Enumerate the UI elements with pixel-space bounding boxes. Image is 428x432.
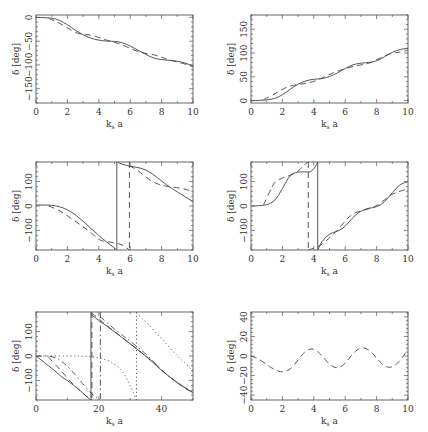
x-tick-label: 8	[159, 254, 165, 264]
y-tick-label: −100	[24, 218, 34, 243]
series-dash-dot	[100, 317, 193, 393]
x-tick-label: 2	[280, 107, 286, 117]
y-tick-label: −50	[24, 31, 34, 50]
y-tick-label: −100	[24, 368, 34, 393]
series-solid	[91, 314, 193, 392]
panel-bottom-right: 024681040200−20−40ks aδ [deg]	[226, 311, 414, 427]
x-tick-label: 8	[374, 404, 380, 414]
y-tick-label: 0	[24, 353, 34, 359]
series-dashed	[251, 348, 408, 372]
x-tick-label: 6	[342, 404, 348, 414]
x-axis-label: ks a	[106, 416, 123, 427]
y-tick-label: −150	[24, 76, 34, 101]
x-tick-label: 8	[374, 254, 380, 264]
series-solid	[117, 162, 193, 202]
x-tick-label: 0	[33, 107, 39, 117]
x-tick-label: 6	[342, 254, 348, 264]
x-tick-label: 4	[96, 254, 102, 264]
x-tick-label: 8	[374, 107, 380, 117]
series-solid	[36, 205, 117, 250]
x-tick-label: 10	[187, 107, 199, 117]
series-group	[36, 17, 193, 66]
x-tick-label: 2	[65, 254, 71, 264]
y-axis-label: δ [deg]	[226, 190, 236, 222]
x-tick-label: 4	[311, 254, 317, 264]
figure: 02468100−50−100−150ks aδ [deg] 024681005…	[0, 0, 428, 432]
y-tick-label: 0	[239, 203, 249, 209]
y-axis-label: δ [deg]	[11, 340, 21, 372]
y-tick-label: 0	[24, 203, 34, 209]
y-axis-label: δ [deg]	[226, 340, 236, 372]
y-tick-label: −40	[239, 385, 249, 404]
x-tick-label: 2	[280, 254, 286, 264]
x-axis-label: ks a	[106, 119, 123, 130]
series-dashed	[129, 166, 193, 192]
axes-frame	[251, 15, 408, 103]
series-group	[251, 162, 408, 250]
y-axis-label: δ [deg]	[11, 43, 21, 75]
y-tick-label: 100	[24, 323, 34, 340]
y-tick-label: −20	[239, 366, 249, 385]
x-axis-label: ks a	[321, 266, 338, 277]
x-tick-label: 10	[402, 107, 414, 117]
panel-middle-right: 02468101000−100ks aδ [deg]	[226, 162, 414, 277]
x-tick-label: 0	[248, 404, 254, 414]
x-tick-label: 20	[93, 404, 105, 414]
series-dashed	[264, 162, 309, 205]
x-tick-label: 6	[342, 107, 348, 117]
y-tick-label: 40	[239, 311, 249, 323]
x-tick-label: 0	[33, 254, 39, 264]
y-tick-label: −100	[239, 218, 249, 243]
x-tick-label: 0	[248, 254, 254, 264]
series-dashed	[264, 50, 408, 99]
x-tick-label: 0	[33, 404, 39, 414]
x-tick-label: 10	[187, 254, 199, 264]
x-tick-label: 4	[96, 107, 102, 117]
x-tick-label: 6	[127, 107, 133, 117]
x-tick-label: 6	[127, 254, 133, 264]
series-solid	[318, 182, 408, 250]
x-axis-label: ks a	[106, 266, 123, 277]
series-solid	[36, 17, 193, 66]
x-tick-label: 2	[65, 107, 71, 117]
series-dotted	[137, 313, 194, 371]
panel-middle-left: 02468101000−100ks aδ [deg]	[11, 162, 199, 277]
x-tick-label: 4	[311, 404, 317, 414]
axes-frame	[251, 162, 408, 250]
y-tick-label: −100	[24, 52, 34, 77]
panel-top-left: 02468100−50−100−150ks aδ [deg]	[11, 14, 199, 130]
x-axis-label: ks a	[321, 119, 338, 130]
series-group	[36, 162, 193, 250]
axes-frame	[251, 312, 408, 400]
series-long-dash	[92, 313, 193, 393]
x-tick-label: 10	[402, 254, 414, 264]
y-tick-label: 100	[239, 173, 249, 190]
y-tick-label: 100	[24, 173, 34, 190]
y-tick-label: 0	[239, 97, 249, 103]
y-tick-label: 150	[239, 20, 249, 37]
series-group	[251, 48, 408, 100]
y-tick-label: 100	[239, 44, 249, 61]
y-axis-label: δ [deg]	[11, 190, 21, 222]
x-tick-label: 4	[311, 107, 317, 117]
y-tick-label: 50	[239, 71, 249, 83]
x-tick-label: 10	[402, 404, 414, 414]
figure-canvas: 02468100−50−100−150ks aδ [deg] 024681005…	[0, 0, 428, 432]
y-tick-label: 0	[239, 353, 249, 359]
series-group	[251, 348, 408, 372]
x-tick-label: 8	[159, 107, 165, 117]
axes-frame	[36, 15, 193, 103]
x-tick-label: 2	[280, 404, 286, 414]
axes-frame	[36, 162, 193, 250]
y-axis-label: δ [deg]	[226, 43, 236, 75]
panel-top-right: 0246810050100150ks aδ [deg]	[226, 15, 414, 130]
panel-bottom-left: 020401000−100ks aδ [deg]	[11, 312, 193, 427]
series-dotted	[36, 356, 137, 400]
series-group	[36, 312, 193, 400]
x-tick-label: 0	[248, 107, 254, 117]
x-axis-label: ks a	[321, 416, 338, 427]
x-tick-label: 40	[156, 404, 168, 414]
series-solid	[251, 162, 318, 206]
series-dashed	[308, 188, 408, 250]
y-tick-label: 20	[239, 330, 249, 342]
